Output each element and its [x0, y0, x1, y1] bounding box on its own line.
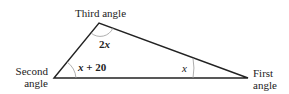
- second-angle-expression: x + 20: [78, 61, 106, 73]
- first-angle-label: First angle: [253, 67, 277, 91]
- first-angle-arc: [193, 58, 194, 78]
- third-angle-label: Third angle: [75, 7, 126, 19]
- second-angle-arc: [67, 62, 76, 78]
- second-angle-label: Second angle: [15, 65, 48, 89]
- third-angle-expression: 2x: [99, 38, 110, 50]
- first-angle-expression: x: [182, 62, 187, 74]
